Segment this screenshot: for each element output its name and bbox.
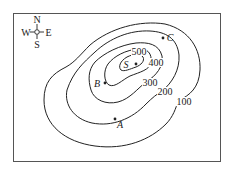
contour-label-100: 100 — [177, 96, 192, 107]
compass-south-label: S — [34, 39, 40, 50]
compass-rose-icon: N W E S — [21, 14, 51, 50]
contour-label-400: 400 — [149, 57, 164, 68]
point-label-c: C — [167, 32, 174, 43]
contour-200 — [66, 31, 179, 124]
point-label-a: A — [116, 119, 124, 130]
compass-west-label: W — [21, 27, 31, 38]
compass-east-label: E — [45, 27, 51, 38]
contour-map: N W E S 100 200 300 400 500 S A — [0, 0, 232, 169]
point-label-b: B — [94, 78, 100, 89]
contour-label-300: 300 — [143, 77, 158, 88]
contour-label-200: 200 — [158, 86, 173, 97]
point-b: B — [94, 78, 106, 89]
point-a: A — [114, 118, 124, 130]
point-s: S — [124, 59, 138, 70]
contour-label-500: 500 — [132, 46, 147, 57]
point-label-s: S — [124, 59, 129, 70]
compass-north-label: N — [33, 14, 40, 25]
